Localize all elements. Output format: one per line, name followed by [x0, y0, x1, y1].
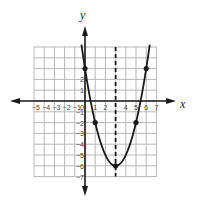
svg-text:1: 1: [93, 104, 97, 111]
parabola-graph: −5−4−3−2−1012456721−1−2−3−4−5−6−7 x y: [0, 0, 200, 202]
svg-text:7: 7: [154, 104, 158, 111]
svg-text:−4: −4: [42, 104, 50, 111]
svg-text:−1: −1: [76, 109, 84, 116]
svg-text:2: 2: [103, 104, 107, 111]
svg-text:−5: −5: [32, 104, 40, 111]
svg-text:−2: −2: [63, 104, 71, 111]
svg-text:−3: −3: [52, 104, 60, 111]
x-axis-label: x: [179, 97, 186, 111]
svg-text:1: 1: [80, 87, 84, 94]
svg-text:−5: −5: [76, 152, 84, 159]
svg-text:5: 5: [134, 104, 138, 111]
svg-text:2: 2: [80, 76, 84, 83]
svg-text:−7: −7: [76, 174, 84, 181]
svg-text:4: 4: [124, 104, 128, 111]
svg-text:−6: −6: [76, 163, 84, 170]
y-axis-label: y: [79, 8, 86, 22]
svg-text:6: 6: [144, 104, 148, 111]
svg-text:−4: −4: [76, 141, 84, 148]
svg-text:−2: −2: [76, 120, 84, 127]
svg-text:−3: −3: [76, 130, 84, 137]
